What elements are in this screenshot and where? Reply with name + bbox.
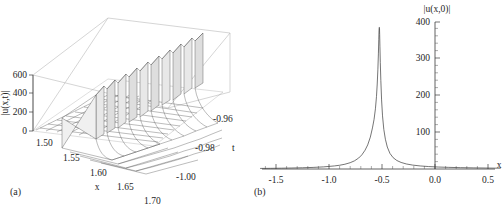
x-axis-title: x: [95, 182, 100, 192]
panel-b-label: (b): [254, 186, 266, 197]
z-tick-label-200: 200: [13, 107, 28, 117]
t-axis: -0.96 -0.98 -1.00 t: [176, 114, 235, 182]
t-axis-title: t: [232, 143, 235, 153]
b-x-tick-label--1.5: -1.5: [268, 175, 283, 185]
b-y-tick-label-100: 100: [416, 127, 431, 137]
b-y-tick-label-400: 400: [416, 17, 431, 27]
b-y-tick-label-300: 300: [416, 53, 431, 63]
surface-spike-wall: [62, 33, 203, 148]
b-y-axis: 100 200 300 400 |u(x,0)|: [416, 4, 451, 169]
x-axis: 1.50 1.55 1.60 1.65 1.70 x: [36, 138, 161, 206]
surface-plot-svg: 0 200 400 600 |u(x,t)| 1.50 1.55 1.60 1.…: [0, 0, 252, 215]
b-y-tick-label-200: 200: [416, 90, 431, 100]
z-tick-label-0: 0: [22, 126, 27, 136]
b-x-axis: -1.5 -1.0 -0.5 0.0 0.5 x: [262, 160, 502, 185]
figure-container: 0 200 400 600 |u(x,t)| 1.50 1.55 1.60 1.…: [0, 0, 503, 215]
panel-a-surface-plot: 0 200 400 600 |u(x,t)| 1.50 1.55 1.60 1.…: [0, 0, 252, 215]
b-x-tick-label--0.5: -0.5: [374, 175, 389, 185]
t-tick-label-098: -0.98: [195, 143, 215, 153]
t-tick-label-096: -0.96: [213, 114, 233, 124]
b-x-tick-label--1.0: -1.0: [321, 175, 336, 185]
x-tick-label-165: 1.65: [117, 182, 134, 192]
z-tick-label-400: 400: [13, 88, 28, 98]
t-tick-label-100: -1.00: [176, 172, 196, 182]
b-x-tick-label-0.0: 0.0: [429, 175, 441, 185]
x-tick-label-170: 1.70: [144, 196, 161, 206]
x-tick-label-155: 1.55: [63, 153, 80, 163]
data-curve: [260, 27, 501, 168]
b-y-axis-title: |u(x,0)|: [424, 4, 451, 15]
panel-a-label: (a): [10, 186, 21, 197]
line-plot-svg: -1.5 -1.0 -0.5 0.0 0.5 x: [252, 0, 503, 215]
z-tick-label-600: 600: [13, 70, 28, 80]
x-tick-label-150: 1.50: [36, 138, 53, 148]
panel-b-line-plot: -1.5 -1.0 -0.5 0.0 0.5 x: [252, 0, 503, 215]
z-axis: 0 200 400 600 |u(x,t)|: [0, 70, 33, 136]
z-axis-title: |u(x,t)|: [0, 91, 11, 116]
b-x-tick-label-0.5: 0.5: [482, 175, 494, 185]
x-tick-label-160: 1.60: [90, 168, 107, 178]
